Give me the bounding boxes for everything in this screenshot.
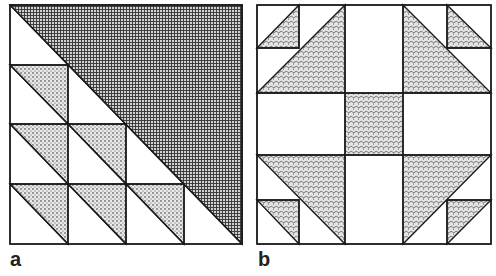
panel-a-label: a [10, 248, 21, 271]
quilt-diagrams [0, 0, 496, 276]
panel-a [10, 5, 242, 244]
panel-b-label: b [258, 248, 270, 271]
panel-b [257, 5, 491, 244]
